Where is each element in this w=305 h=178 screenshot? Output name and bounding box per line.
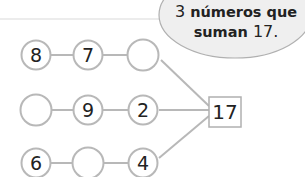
cell-value: 8 [30,44,42,66]
empty-circle[interactable] [21,95,52,126]
bubble-line-1: 3 números que [168,2,304,22]
cell-value: 4 [137,152,149,174]
bubble-text-2: suman [194,24,248,40]
bubble-number: 3 [175,2,185,21]
connector-to-target [161,60,209,106]
bubble-text-1: números que [190,4,297,20]
connector-to-target [159,116,209,158]
empty-circle[interactable] [73,148,104,178]
empty-circle[interactable] [128,40,159,71]
target-value: 17 [212,100,237,124]
cell-value: 9 [82,99,94,121]
bubble-sum: 17. [253,22,278,41]
cell-value: 2 [137,99,149,121]
cell-value: 7 [82,44,94,66]
bubble-line-2: suman 17. [168,22,304,42]
bubble-text: 3 números que suman 17. [168,2,304,42]
cell-value: 6 [30,152,42,174]
